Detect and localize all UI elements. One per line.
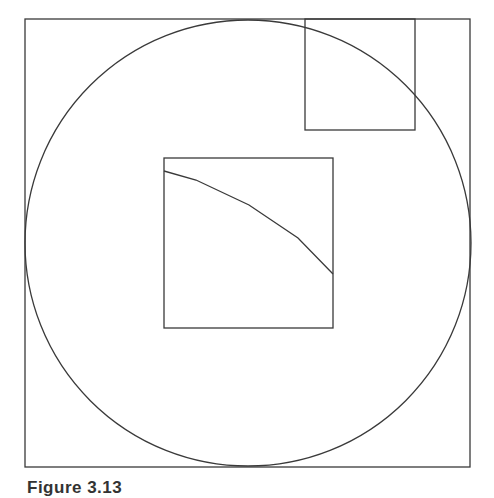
figure-caption: Figure 3.13 xyxy=(27,478,122,498)
corner-zoom-square xyxy=(305,19,415,130)
inscribed-circle xyxy=(25,20,471,466)
outer-square xyxy=(25,19,470,467)
magnified-arc xyxy=(164,171,333,274)
center-magnified-square xyxy=(164,158,333,328)
